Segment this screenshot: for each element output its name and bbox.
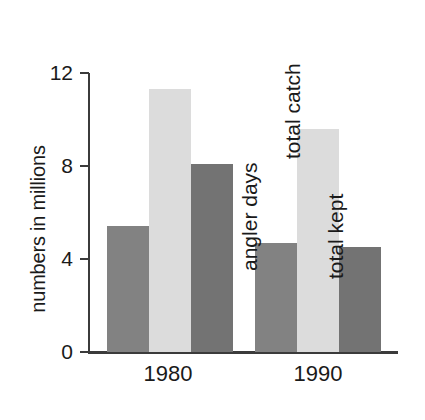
bar-1980-total-catch — [149, 89, 191, 352]
bar-chart: numbers in millions 12 8 4 0 angler days… — [0, 0, 425, 420]
series-annotation-angler-days: angler days — [239, 162, 260, 271]
x-group-label-1980: 1980 — [108, 360, 228, 388]
series-annotation-total-kept: total kept — [325, 194, 346, 279]
bar-1980-total-kept — [191, 164, 233, 352]
x-group-label-1990: 1990 — [258, 360, 378, 388]
series-annotation-total-catch: total catch — [282, 63, 303, 159]
bar-1990-angler-days — [255, 243, 297, 352]
plot-area — [0, 0, 425, 420]
bar-1980-angler-days — [107, 226, 149, 352]
